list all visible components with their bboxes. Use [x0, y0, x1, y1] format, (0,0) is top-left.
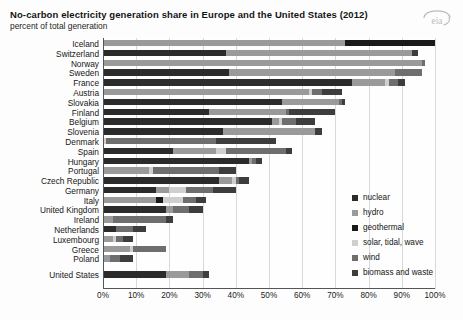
bar-segment-solar-tidal-wave — [216, 148, 226, 154]
category-label-sweden: Sweden — [69, 69, 99, 77]
x-tick-label: 50% — [261, 291, 277, 300]
category-label-belgium: Belgium — [69, 118, 99, 126]
bar-segment-biomass-and-waste — [398, 79, 405, 85]
bar-segment-biomass-and-waste — [322, 89, 342, 95]
category-label-italy: Italy — [84, 197, 99, 205]
bar-segment-biomass-and-waste — [216, 138, 276, 144]
y-axis-line — [103, 38, 104, 289]
bar-row: France — [103, 79, 435, 85]
bar-segment-nuclear — [103, 158, 249, 164]
category-label-portugal: Portugal — [68, 167, 99, 175]
chart-container: No-carbon electricity generation share i… — [0, 0, 463, 320]
bar-segment-biomass-and-waste — [203, 271, 210, 277]
bar-segment-nuclear — [103, 148, 173, 154]
bar-segment-wind — [153, 167, 219, 173]
bar-row: Denmark — [103, 138, 435, 144]
category-label-hungary: Hungary — [68, 158, 99, 166]
bar-row: Switzerland — [103, 50, 435, 56]
category-label-slovenia: Slovenia — [67, 128, 99, 136]
bar-segment-wind — [282, 118, 295, 124]
bar-segment-nuclear — [103, 271, 166, 277]
bar-segment-wind — [133, 246, 166, 252]
bar-segment-nuclear — [103, 79, 352, 85]
legend-swatch-icon — [352, 225, 358, 231]
bar-segment-wind — [183, 197, 196, 203]
bar-segment-nuclear — [103, 187, 156, 193]
category-label-ireland: Ireland — [74, 216, 99, 224]
bar-segment-hydro — [229, 69, 395, 75]
bar-segment-wind — [186, 187, 213, 193]
chart-subtitle: percent of total generation — [10, 21, 107, 31]
bar-segment-biomass-and-waste — [219, 167, 236, 173]
category-label-slovakia: Slovakia — [68, 99, 99, 107]
bar-segment-wind — [389, 79, 399, 85]
bar-segment-hydro — [166, 206, 173, 212]
bar-segment-biomass-and-waste — [120, 255, 133, 261]
category-label-finland: Finland — [72, 109, 99, 117]
category-label-united-kingdom: United Kingdom — [40, 206, 99, 214]
x-tick-label: 100% — [425, 291, 446, 300]
x-tick-label: 20% — [161, 291, 177, 300]
category-label-norway: Norway — [71, 60, 99, 68]
bar-segment-wind — [116, 236, 123, 242]
bar-segment-biomass-and-waste — [189, 206, 202, 212]
bar-segment-biomass-and-waste — [289, 109, 335, 115]
bar-segment-hydro — [223, 128, 316, 134]
bar-segment-hydro — [219, 177, 232, 183]
bar-segment-biomass-and-waste — [256, 158, 263, 164]
bar-segment-hydro — [103, 89, 309, 95]
bar-row: Iceland — [103, 40, 435, 46]
bar-segment-nuclear — [103, 99, 282, 105]
bar-segment-hydro — [226, 50, 412, 56]
bar-segment-wind — [106, 138, 216, 144]
x-tick-label: 60% — [294, 291, 310, 300]
legend-label: geothermal — [363, 223, 404, 232]
bar-segment-wind — [395, 69, 422, 75]
legend-label: biomass and waste — [363, 268, 433, 277]
legend-swatch-icon — [352, 195, 358, 201]
bar-row: Czech Republic — [103, 177, 435, 183]
bar-segment-nuclear — [103, 69, 229, 75]
bar-row: Portugal — [103, 167, 435, 173]
bar-segment-hydro — [103, 40, 345, 46]
bar-segment-geothermal — [156, 197, 163, 203]
x-tick-label: 40% — [228, 291, 244, 300]
bar-segment-hydro — [103, 60, 422, 66]
legend-item-geothermal[interactable]: geothermal — [352, 220, 433, 235]
bar-segment-nuclear — [103, 177, 219, 183]
legend-swatch-icon — [352, 270, 358, 276]
bar-segment-nuclear — [103, 206, 166, 212]
bar-segment-biomass-and-waste — [296, 118, 316, 124]
chart-legend: nuclearhydrogeothermalsolar, tidal, wave… — [352, 190, 433, 280]
legend-item-nuclear[interactable]: nuclear — [352, 190, 433, 205]
bar-row: Spain — [103, 148, 435, 154]
category-label-denmark: Denmark — [65, 138, 99, 146]
bar-segment-biomass-and-waste — [133, 226, 146, 232]
bar-segment-hydro — [103, 216, 113, 222]
bar-segment-solar-tidal-wave — [169, 187, 186, 193]
bar-segment-hydro — [103, 167, 149, 173]
category-label-poland: Poland — [73, 255, 99, 263]
legend-item-biomass-and-waste[interactable]: biomass and waste — [352, 265, 433, 280]
category-label-austria: Austria — [73, 89, 99, 97]
legend-item-solar-tidal-wave[interactable]: solar, tidal, wave — [352, 235, 433, 250]
category-label-germany: Germany — [65, 187, 99, 195]
bar-segment-biomass-and-waste — [286, 148, 293, 154]
x-tick-label: 10% — [128, 291, 144, 300]
bar-segment-hydro — [272, 118, 279, 124]
bar-segment-hydro — [282, 99, 338, 105]
legend-item-hydro[interactable]: hydro — [352, 205, 433, 220]
bar-segment-hydro — [103, 236, 113, 242]
gridline — [435, 38, 436, 289]
bar-segment-nuclear — [103, 128, 223, 134]
category-label-netherlands: Netherlands — [54, 226, 99, 234]
x-tick-label: 80% — [360, 291, 376, 300]
bar-segment-hydro — [352, 79, 385, 85]
category-label-switzerland: Switzerland — [56, 50, 99, 58]
legend-label: wind — [363, 253, 380, 262]
bar-segment-hydro — [166, 271, 189, 277]
bar-segment-biomass-and-waste — [239, 177, 249, 183]
bar-segment-nuclear — [103, 109, 209, 115]
legend-item-wind[interactable]: wind — [352, 250, 433, 265]
bar-segment-wind — [116, 226, 133, 232]
